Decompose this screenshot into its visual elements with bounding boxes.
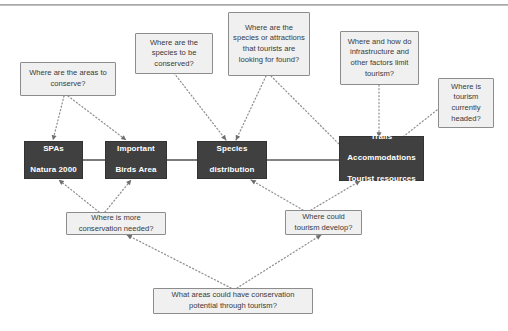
data-box-important-birds-area[interactable]: ImportantBirds Area <box>105 141 167 179</box>
question-note-tourism-currently-headed[interactable]: Where is tourism currently headed? <box>438 78 494 128</box>
data-box-spas[interactable]: SPAsNatura 2000 <box>24 141 83 179</box>
edge-tourismdevelop-to-trails <box>311 181 360 210</box>
data-box-species-text: Speciesdistribution <box>198 144 266 176</box>
diagram-canvas: SPAsNatura 2000 ImportantBirds Area Spec… <box>0 0 508 331</box>
edge-tourismdevelop-to-species <box>251 180 303 210</box>
edge-attractions-to-species <box>236 76 266 140</box>
data-box-trails-text: TrailsAccommodationsTourist resources <box>340 132 423 185</box>
edge-areas-to-iba <box>68 96 126 140</box>
edge-moreconservation-to-spas <box>59 180 99 212</box>
data-box-iba-text: ImportantBirds Area <box>106 144 166 176</box>
data-box-species-distribution[interactable]: Speciesdistribution <box>197 141 267 179</box>
edge-bottom-to-moreconservation <box>127 235 231 288</box>
question-note-tourism-currently-headed-text: Where is tourism currently headed? <box>442 82 490 124</box>
data-box-spas-text: SPAsNatura 2000 <box>25 144 82 176</box>
question-note-species-attractions-tourists[interactable]: Where are the species or attractions tha… <box>228 12 310 76</box>
question-note-tourism-develop-text: Where could tourism develop? <box>289 212 358 233</box>
question-note-areas-to-conserve-text: Where are the areas to conserve? <box>24 68 112 89</box>
question-note-conservation-potential-tourism[interactable]: What areas could have conservation poten… <box>153 288 313 314</box>
edge-moreconservation-to-iba <box>105 180 131 212</box>
question-note-infrastructure-limits-text: Where and how do infrastructure and othe… <box>344 37 415 79</box>
question-note-species-to-be-conserved[interactable]: Where are the species to be conserved? <box>135 33 213 74</box>
edge-speciesconserved-to-species <box>174 73 226 140</box>
edge-bottom-to-tourismdevelop <box>237 235 321 288</box>
question-note-infrastructure-limits[interactable]: Where and how do infrastructure and othe… <box>340 31 419 85</box>
question-note-species-attractions-tourists-text: Where are the species or attractions tha… <box>232 23 306 65</box>
question-note-more-conservation-needed-text: Where is more conservation needed? <box>70 213 162 234</box>
edge-areas-to-spas <box>53 96 64 140</box>
edge-attractions-to-trails <box>271 76 347 152</box>
question-note-more-conservation-needed[interactable]: Where is more conservation needed? <box>66 212 166 235</box>
question-note-species-to-be-conserved-text: Where are the species to be conserved? <box>139 38 209 70</box>
question-note-tourism-develop[interactable]: Where could tourism develop? <box>285 210 362 235</box>
question-note-conservation-potential-tourism-text: What areas could have conservation poten… <box>157 290 309 311</box>
data-box-trails-accommodations[interactable]: TrailsAccommodationsTourist resources <box>339 136 424 181</box>
question-note-areas-to-conserve[interactable]: Where are the areas to conserve? <box>20 62 116 96</box>
